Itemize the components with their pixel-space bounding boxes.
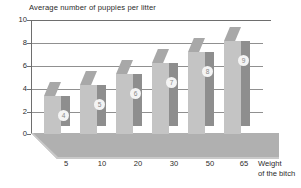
bar-20-value-badge: 6 bbox=[130, 88, 141, 99]
y-axis-tick-labels: 10 8 6 4 2 0 bbox=[10, 0, 27, 188]
bar-5[interactable]: 4 bbox=[44, 0, 70, 134]
x-tick-label-10: 10 bbox=[92, 159, 112, 168]
bar-30-value-badge: 7 bbox=[166, 77, 177, 88]
bar-5-value-badge: 4 bbox=[58, 110, 69, 121]
bar-10-face bbox=[80, 85, 97, 134]
x-tick-label-30: 30 bbox=[164, 159, 184, 168]
bar-5-top bbox=[44, 82, 61, 96]
x-tick-label-5: 5 bbox=[56, 159, 76, 168]
x-tick-label-20: 20 bbox=[128, 159, 148, 168]
bar-20[interactable]: 6 bbox=[116, 0, 142, 134]
chart-floor bbox=[31, 133, 279, 159]
bar-65-top bbox=[224, 27, 241, 41]
bar-30[interactable]: 7 bbox=[152, 0, 178, 134]
bar-50-top bbox=[188, 38, 205, 52]
bar-50-value-badge: 8 bbox=[202, 66, 213, 77]
x-axis-title-line2: of the bitch bbox=[258, 169, 301, 179]
bar-10-top bbox=[80, 71, 97, 85]
bar-65-side bbox=[241, 41, 250, 126]
x-tick-label-65: 65 bbox=[234, 159, 254, 168]
x-axis-title-line1: Weight bbox=[258, 159, 301, 169]
bar-50[interactable]: 8 bbox=[188, 0, 214, 134]
x-tick-label-50: 50 bbox=[200, 159, 220, 168]
chart-container: Average number of puppies per litter 10 … bbox=[0, 0, 301, 188]
bar-10[interactable]: 5 bbox=[80, 0, 106, 134]
bar-65[interactable]: 9 bbox=[224, 0, 250, 134]
bar-10-value-badge: 5 bbox=[94, 99, 105, 110]
bar-50-face bbox=[188, 52, 205, 134]
y-tick-label-10: 10 bbox=[19, 16, 27, 24]
y-axis-line bbox=[31, 20, 32, 134]
x-axis-title: Weight of the bitch bbox=[258, 159, 301, 179]
bar-30-face bbox=[152, 63, 169, 134]
bar-65-value-badge: 9 bbox=[238, 55, 249, 66]
bar-30-top bbox=[152, 49, 169, 63]
bar-20-side bbox=[133, 74, 142, 126]
bar-50-side bbox=[205, 52, 214, 126]
bar-65-face bbox=[224, 41, 241, 134]
bar-30-side bbox=[169, 63, 178, 126]
bar-20-face bbox=[116, 74, 133, 134]
bar-20-top bbox=[116, 60, 133, 74]
